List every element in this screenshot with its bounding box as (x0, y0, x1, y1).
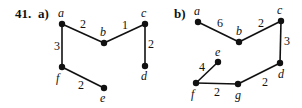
vertex-label: d (278, 67, 285, 81)
vertex-label: c (277, 3, 283, 17)
vertex-label: d (141, 69, 148, 83)
vertex-f (193, 80, 199, 86)
edge-weight: 2 (78, 78, 84, 92)
vertex-label: a (194, 4, 200, 18)
edge-weight: 4 (199, 60, 205, 74)
vertex-c (278, 18, 284, 24)
vertex-g (235, 81, 241, 87)
vertex-label: c (141, 6, 147, 20)
vertex-b (236, 39, 242, 45)
edge-weight: 3 (284, 34, 290, 48)
vertex-a (195, 19, 201, 25)
edge-weight: 2 (214, 85, 220, 99)
weighted-graphs-diagram: 41. a) b) 21232abcdfe 623224abcdefg (0, 0, 302, 108)
edge-weight: 1 (122, 18, 128, 32)
edge-c-d (280, 21, 281, 63)
vertex-a (59, 21, 65, 27)
vertex-label: a (58, 6, 64, 20)
graph-b-label: b) (174, 6, 186, 21)
vertex-f (59, 64, 65, 70)
vertex-e (215, 59, 221, 65)
vertex-label: e (100, 91, 106, 105)
graph-b: 623224abcdefg (191, 3, 290, 102)
edge-weight: 2 (258, 16, 264, 30)
vertex-label: b (100, 25, 106, 39)
vertex-label: b (236, 24, 242, 38)
edge-weight: 2 (262, 75, 268, 89)
graph-a: 21232abcdfe (54, 6, 154, 105)
vertex-d (277, 60, 283, 66)
edge-weight: 2 (148, 37, 154, 51)
graph-a-label: a) (38, 6, 49, 21)
edge-weight: 3 (54, 39, 60, 53)
problem-number: 41. (15, 6, 31, 21)
edge-weight: 2 (80, 17, 86, 31)
vertex-label: e (215, 45, 221, 59)
edge-g-f (196, 83, 238, 84)
edge-d-g (238, 63, 280, 84)
vertex-c (142, 21, 148, 27)
vertex-label: f (56, 71, 61, 85)
edge-weight: 6 (217, 16, 223, 30)
vertex-label: f (191, 87, 196, 101)
vertex-label: g (235, 88, 241, 102)
vertex-b (101, 40, 107, 46)
